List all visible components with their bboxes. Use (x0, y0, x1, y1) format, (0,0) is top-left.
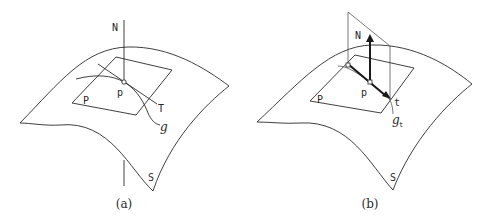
point-p (122, 80, 126, 84)
label-T: T (158, 103, 164, 114)
label-P: P (317, 94, 323, 105)
point-left (346, 63, 350, 67)
surface-outline (20, 47, 229, 191)
label-g-subscript: t (399, 121, 403, 129)
figure: N p P T g S (a) N (0, 0, 486, 221)
surface-outline (257, 45, 472, 190)
label-p: p (361, 87, 367, 98)
panel-a: N p P T g S (a) (20, 20, 229, 211)
label-t: t (394, 97, 400, 108)
point-p (368, 80, 372, 84)
caption-b: (b) (361, 197, 378, 211)
tangent-line-T (98, 64, 157, 104)
label-S: S (390, 172, 396, 183)
label-N: N (355, 30, 361, 41)
label-N: N (112, 22, 118, 33)
label-P: P (83, 95, 89, 106)
label-g: g (160, 120, 168, 134)
panel-b: N p P t g t S (b) (257, 12, 472, 211)
label-p: p (117, 87, 123, 98)
label-S: S (148, 172, 154, 183)
tangent-plane (72, 57, 172, 115)
caption-a: (a) (116, 197, 133, 211)
normal-arrowhead (366, 34, 374, 42)
